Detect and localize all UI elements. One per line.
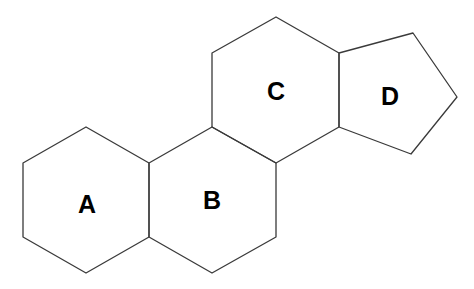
- ring-d-label: D: [381, 82, 399, 110]
- steroid-ring-diagram: A B C D: [0, 0, 474, 289]
- ring-c-label: C: [267, 77, 285, 105]
- ring-a-label: A: [78, 190, 96, 218]
- ring-b-label: B: [203, 186, 221, 214]
